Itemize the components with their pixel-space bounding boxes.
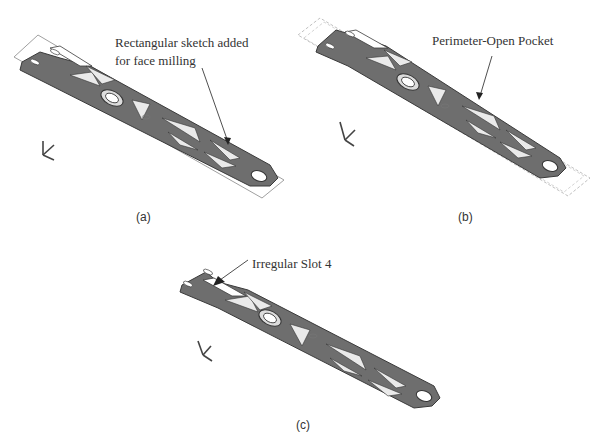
figure-canvas [0,0,608,447]
callout-a-line1: Rectangular sketch added [115,35,249,51]
panel-label-c: (c) [296,418,310,432]
panel-c [180,260,440,408]
panel-label-a: (a) [136,210,151,224]
arm-part-c [180,268,440,408]
axis-triad-c [198,341,212,361]
axis-triad-b [340,122,355,146]
callout-b: Perimeter-Open Pocket [432,33,553,49]
axis-triad-a [43,141,54,160]
arm-part-b [316,30,566,178]
callout-c: Irregular Slot 4 [252,256,331,272]
panel-label-b: (b) [458,210,473,224]
callout-a-line2: for face milling [115,53,196,69]
callout-arrow-c [220,260,248,280]
callout-arrow-b [480,56,492,96]
